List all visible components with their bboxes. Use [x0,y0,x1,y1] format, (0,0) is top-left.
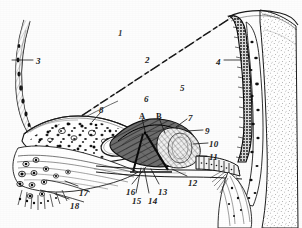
label-10: 10 [209,140,218,149]
label-8: 8 [99,106,104,115]
label-18: 18 [70,202,79,211]
label-12: 12 [188,179,197,188]
label-A: A [139,112,145,121]
figure-illustration [0,0,302,228]
label-5: 5 [180,84,185,93]
label-B: B [156,112,162,121]
label-7: 7 [188,114,193,123]
label-2: 2 [145,56,150,65]
label-9: 9 [205,127,210,136]
label-16: 16 [126,188,135,197]
label-4: 4 [216,58,221,67]
label-13: 13 [158,188,167,197]
label-17: 17 [79,189,88,198]
label-3: 3 [36,57,41,66]
label-15: 15 [132,197,141,206]
label-14: 14 [148,197,157,206]
label-6: 6 [144,95,149,104]
label-1: 1 [118,29,123,38]
label-11: 11 [209,153,218,162]
anatomical-figure: 123456789101112131415161718AB [0,0,302,228]
